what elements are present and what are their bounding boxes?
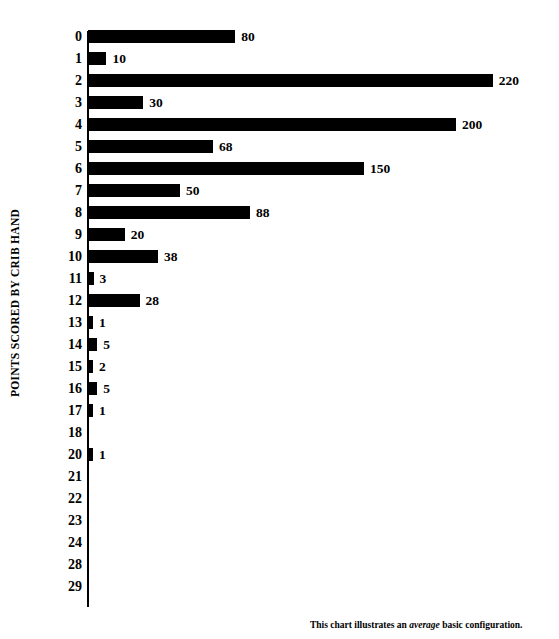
bar-row: 080	[30, 26, 550, 48]
bar-row: 920	[30, 224, 550, 246]
bar	[88, 118, 456, 131]
bar-value-label: 50	[186, 180, 200, 202]
category-label: 17	[30, 400, 82, 422]
bar	[88, 74, 493, 87]
bar-row: 6150	[30, 158, 550, 180]
bar-row: 888	[30, 202, 550, 224]
bar	[88, 382, 97, 395]
crib-hand-points-bar-chart: POINTS SCORED BY CRIB HAND 0801102220330…	[0, 0, 559, 639]
category-label: 28	[30, 554, 82, 576]
bar-value-label: 38	[164, 246, 178, 268]
category-label: 21	[30, 466, 82, 488]
category-label: 2	[30, 70, 82, 92]
category-label: 22	[30, 488, 82, 510]
category-label: 8	[30, 202, 82, 224]
bar-row: 23	[30, 510, 550, 532]
bar-value-label: 30	[149, 92, 163, 114]
bar	[88, 448, 93, 461]
bar-value-label: 5	[103, 334, 110, 356]
bar-value-label: 20	[131, 224, 145, 246]
category-label: 16	[30, 378, 82, 400]
bar-value-label: 80	[241, 26, 255, 48]
category-label: 18	[30, 422, 82, 444]
bar	[88, 96, 143, 109]
bar	[88, 140, 213, 153]
bar	[88, 250, 158, 263]
bar	[88, 206, 250, 219]
footnote-suffix: basic configuration.	[440, 620, 523, 630]
bar-value-label: 1	[99, 312, 106, 334]
bar-row: 165	[30, 378, 550, 400]
bar-value-label: 2	[99, 356, 106, 378]
footnote-prefix: This chart illustrates an	[310, 620, 409, 630]
y-axis-title: POINTS SCORED BY CRIB HAND	[0, 0, 30, 605]
y-axis-title-text: POINTS SCORED BY CRIB HAND	[9, 208, 21, 396]
category-label: 20	[30, 444, 82, 466]
category-label: 0	[30, 26, 82, 48]
category-label: 1	[30, 48, 82, 70]
category-label: 29	[30, 576, 82, 598]
bar-row: 24	[30, 532, 550, 554]
bar	[88, 360, 93, 373]
category-label: 13	[30, 312, 82, 334]
category-label: 3	[30, 92, 82, 114]
bar	[88, 52, 106, 65]
bar-row: 330	[30, 92, 550, 114]
category-label: 24	[30, 532, 82, 554]
category-label: 23	[30, 510, 82, 532]
bar-row: 152	[30, 356, 550, 378]
bar-row: 145	[30, 334, 550, 356]
bar-value-label: 88	[256, 202, 270, 224]
bar-value-label: 220	[499, 70, 519, 92]
category-label: 7	[30, 180, 82, 202]
category-label: 11	[30, 268, 82, 290]
plot-area: 0801102220330420056861507508889201038113…	[30, 26, 550, 606]
bar-value-label: 1	[99, 400, 106, 422]
category-label: 15	[30, 356, 82, 378]
category-label: 9	[30, 224, 82, 246]
bar-row: 131	[30, 312, 550, 334]
bar-row: 113	[30, 268, 550, 290]
bar-value-label: 10	[112, 48, 126, 70]
bar-row: 2220	[30, 70, 550, 92]
category-label: 5	[30, 136, 82, 158]
category-label: 10	[30, 246, 82, 268]
chart-footnote: This chart illustrates an average basic …	[310, 620, 522, 630]
bar	[88, 338, 97, 351]
bar-row: 21	[30, 466, 550, 488]
bar-row: 18	[30, 422, 550, 444]
bar	[88, 162, 364, 175]
bar-value-label: 1	[99, 444, 106, 466]
bar-value-label: 200	[462, 114, 482, 136]
bar-row: 1038	[30, 246, 550, 268]
bar-row: 171	[30, 400, 550, 422]
bar-row: 201	[30, 444, 550, 466]
bar-row: 28	[30, 554, 550, 576]
category-label: 6	[30, 158, 82, 180]
bar-value-label: 5	[103, 378, 110, 400]
bar	[88, 294, 140, 307]
bar	[88, 272, 94, 285]
category-label: 12	[30, 290, 82, 312]
bar-value-label: 28	[146, 290, 160, 312]
bar	[88, 404, 93, 417]
bar-row: 22	[30, 488, 550, 510]
bar-row: 4200	[30, 114, 550, 136]
category-label: 14	[30, 334, 82, 356]
bar	[88, 316, 93, 329]
bar	[88, 30, 235, 43]
bar-value-label: 68	[219, 136, 233, 158]
footnote-emphasis: average	[409, 620, 440, 630]
bar	[88, 228, 125, 241]
bar-row: 568	[30, 136, 550, 158]
category-label: 4	[30, 114, 82, 136]
bar-row: 750	[30, 180, 550, 202]
bar-value-label: 3	[100, 268, 107, 290]
bar-row: 29	[30, 576, 550, 598]
bar	[88, 184, 180, 197]
bar-row: 1228	[30, 290, 550, 312]
bar-row: 110	[30, 48, 550, 70]
bar-value-label: 150	[370, 158, 390, 180]
